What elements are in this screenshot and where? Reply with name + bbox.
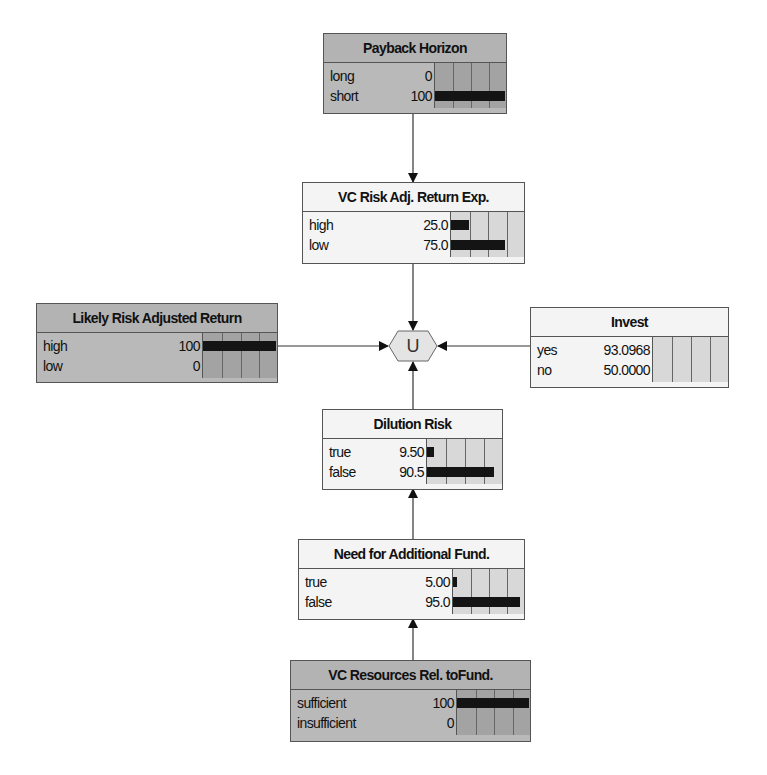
node-title: Dilution Risk — [323, 410, 502, 439]
node-title: VC Resources Rel. toFund. — [291, 661, 530, 690]
bar-gridline — [489, 569, 490, 614]
state-name: false — [299, 592, 425, 612]
state-value: 5.00 — [425, 572, 452, 592]
state-value: 9.50 — [399, 442, 426, 462]
state-name: long — [324, 66, 425, 86]
state-row[interactable]: false 90.5 — [323, 462, 426, 482]
belief-bars — [202, 333, 277, 378]
bar-gridline — [507, 212, 508, 257]
state-value: 90.5 — [399, 462, 426, 482]
bar-gridline — [710, 337, 711, 382]
node-payback-horizon[interactable]: Payback Horizon long 0 short 100 — [323, 33, 507, 114]
state-name: low — [303, 235, 423, 255]
state-value: 50.0000 — [604, 360, 652, 380]
belief-bar — [453, 577, 457, 587]
bar-gridline — [691, 337, 692, 382]
bar-gridline — [489, 63, 490, 108]
bar-gridline — [672, 337, 673, 382]
bar-gridline — [241, 333, 242, 378]
bar-gridline — [476, 690, 477, 735]
utility-node[interactable]: U — [388, 330, 438, 362]
state-row[interactable]: true 9.50 — [323, 442, 426, 462]
state-value: 25.0 — [423, 215, 450, 235]
node-vc-risk-adj-return-exp[interactable]: VC Risk Adj. Return Exp. high 25.0 low 7… — [302, 182, 525, 264]
node-likely-risk-adjusted-return[interactable]: Likely Risk Adjusted Return high 100 low… — [36, 303, 278, 383]
belief-bar — [427, 467, 494, 477]
state-name: short — [324, 86, 410, 106]
state-row[interactable]: high 100 — [37, 336, 202, 356]
belief-bars — [456, 690, 530, 735]
bar-gridline — [484, 439, 485, 484]
belief-bars — [426, 439, 502, 484]
state-value: 95.0 — [425, 592, 452, 612]
belief-bars — [434, 63, 506, 108]
belief-bars — [652, 337, 728, 382]
bar-gridline — [471, 63, 472, 108]
state-value: 100 — [410, 86, 434, 106]
belief-bars — [450, 212, 524, 257]
state-name: insufficient — [291, 713, 447, 733]
state-row[interactable]: long 0 — [324, 66, 434, 86]
bar-gridline — [471, 569, 472, 614]
node-dilution-risk[interactable]: Dilution Risk true 9.50 false 90.5 — [322, 409, 503, 490]
bar-gridline — [488, 212, 489, 257]
state-value: 100 — [432, 693, 456, 713]
state-row[interactable]: low 0 — [37, 356, 202, 376]
state-row[interactable]: true 5.00 — [299, 572, 452, 592]
utility-label: U — [388, 330, 438, 362]
state-value: 75.0 — [423, 235, 450, 255]
state-row[interactable]: false 95.0 — [299, 592, 452, 612]
state-value: 93.0968 — [604, 340, 652, 360]
bar-gridline — [494, 690, 495, 735]
belief-bar — [451, 240, 505, 250]
belief-bars — [452, 569, 524, 614]
bar-gridline — [259, 333, 260, 378]
node-title: Need for Additional Fund. — [299, 540, 524, 569]
node-title: VC Risk Adj. Return Exp. — [303, 183, 524, 212]
belief-bar — [435, 91, 505, 101]
state-row[interactable]: low 75.0 — [303, 235, 450, 255]
state-value: 0 — [425, 66, 434, 86]
state-row[interactable]: high 25.0 — [303, 215, 450, 235]
state-value: 100 — [178, 336, 202, 356]
node-title: Invest — [531, 308, 728, 337]
state-row[interactable]: insufficient 0 — [291, 713, 456, 733]
node-title: Payback Horizon — [324, 34, 506, 63]
state-row[interactable]: sufficient 100 — [291, 693, 456, 713]
state-name: no — [531, 360, 604, 380]
state-value: 0 — [447, 713, 456, 733]
bar-gridline — [222, 333, 223, 378]
node-need-for-additional-fund[interactable]: Need for Additional Fund. true 5.00 fals… — [298, 539, 525, 620]
bar-gridline — [465, 439, 466, 484]
state-name: yes — [531, 340, 604, 360]
state-name: true — [323, 442, 399, 462]
bar-gridline — [470, 212, 471, 257]
state-name: low — [37, 356, 193, 376]
bar-gridline — [513, 690, 514, 735]
state-name: true — [299, 572, 425, 592]
node-title: Likely Risk Adjusted Return — [37, 304, 277, 333]
state-name: sufficient — [291, 693, 432, 713]
state-row[interactable]: yes 93.0968 — [531, 340, 652, 360]
bar-gridline — [507, 569, 508, 614]
state-name: high — [303, 215, 423, 235]
belief-bar — [427, 447, 434, 457]
belief-bar — [453, 597, 520, 607]
belief-bar — [203, 341, 276, 351]
state-name: high — [37, 336, 178, 356]
node-invest-decision[interactable]: Invest yes 93.0968 no 50.0000 — [530, 307, 729, 388]
node-vc-resources-rel-to-fund[interactable]: VC Resources Rel. toFund. sufficient 100… — [290, 660, 531, 742]
state-row[interactable]: short 100 — [324, 86, 434, 106]
state-row[interactable]: no 50.0000 — [531, 360, 652, 380]
bar-gridline — [446, 439, 447, 484]
state-value: 0 — [193, 356, 202, 376]
bar-gridline — [453, 63, 454, 108]
belief-bar — [451, 220, 469, 230]
state-name: false — [323, 462, 399, 482]
belief-bar — [457, 698, 529, 708]
